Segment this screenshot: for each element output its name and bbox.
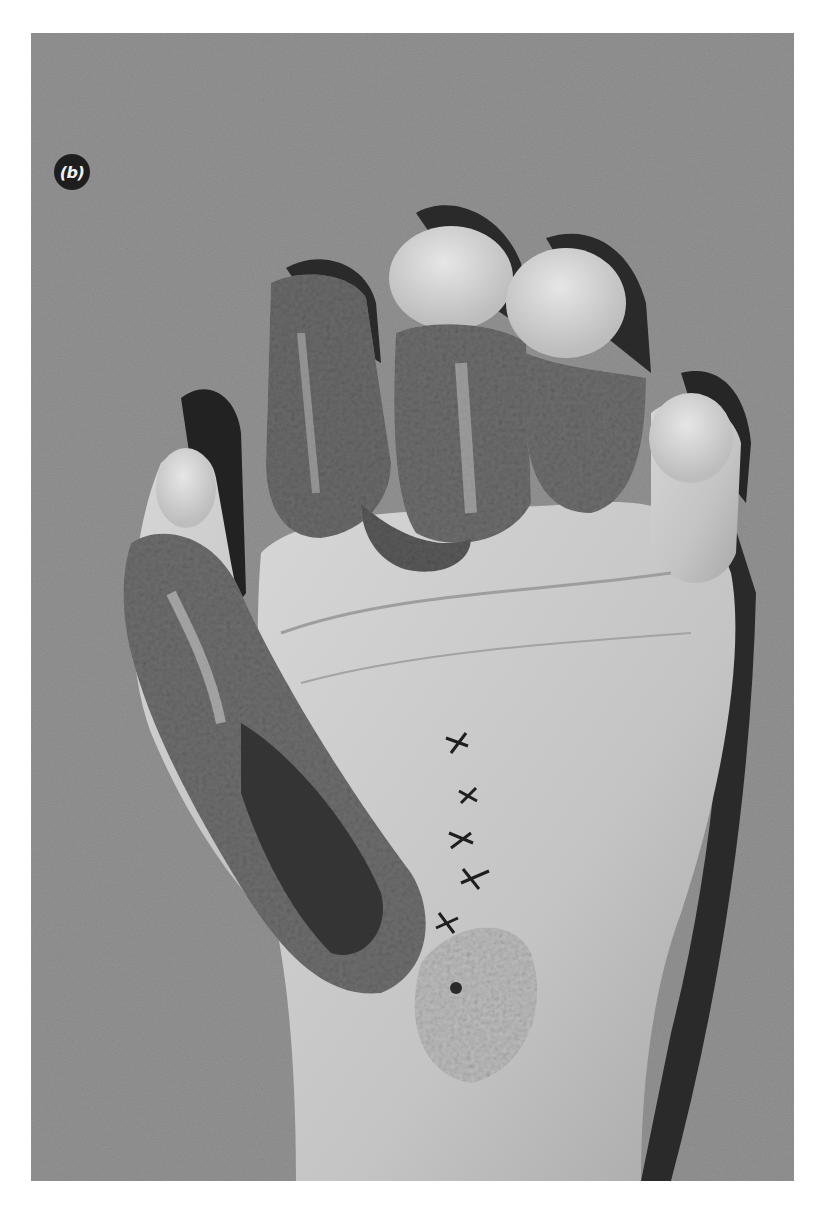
- panel-label: (b): [54, 154, 90, 190]
- hand-illustration: [31, 33, 794, 1181]
- clinical-photograph: [31, 33, 794, 1181]
